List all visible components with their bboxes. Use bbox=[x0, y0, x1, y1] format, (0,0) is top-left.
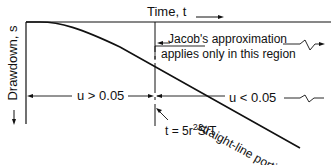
left-region-label: u > 0.05 bbox=[77, 90, 124, 102]
drawdown-arrow-icon bbox=[12, 119, 16, 125]
bracket-arrow-icon bbox=[157, 41, 163, 45]
y-axis-label: Drawdown, s bbox=[7, 23, 19, 103]
threshold-label: t = 5r bbox=[165, 124, 193, 138]
right-region-label: u < 0.05 bbox=[229, 92, 276, 104]
region-note-line2: applies only in this region bbox=[161, 48, 296, 60]
diagram-canvas bbox=[0, 0, 333, 165]
region-note-line1: Jacob's approximation bbox=[168, 33, 287, 45]
time-arrow-icon bbox=[218, 15, 224, 19]
x-axis-label: Time, t bbox=[147, 6, 186, 18]
break-icon bbox=[300, 40, 321, 50]
break-icon-2 bbox=[300, 95, 324, 102]
